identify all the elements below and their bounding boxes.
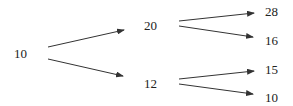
nodes-group: 10 20 12 28 16 15 10: [14, 4, 279, 105]
tree-diagram: 10 20 12 28 16 15 10: [0, 0, 293, 106]
node-leaf-2: 16: [265, 33, 279, 48]
arrow-root-to-a: [48, 30, 124, 47]
arrow-a-to-ab: [179, 26, 253, 37]
arrow-b-to-bb: [179, 84, 253, 94]
node-leaf-3: 15: [265, 62, 278, 77]
arrow-a-to-aa: [179, 13, 254, 21]
node-root: 10: [14, 46, 27, 61]
node-leaf-4: 10: [265, 90, 278, 105]
arrow-b-to-ba: [179, 71, 254, 79]
node-level1-top: 20: [144, 18, 157, 33]
arrow-root-to-b: [48, 59, 123, 76]
node-level1-bottom: 12: [144, 76, 157, 91]
node-leaf-1: 28: [265, 4, 278, 19]
